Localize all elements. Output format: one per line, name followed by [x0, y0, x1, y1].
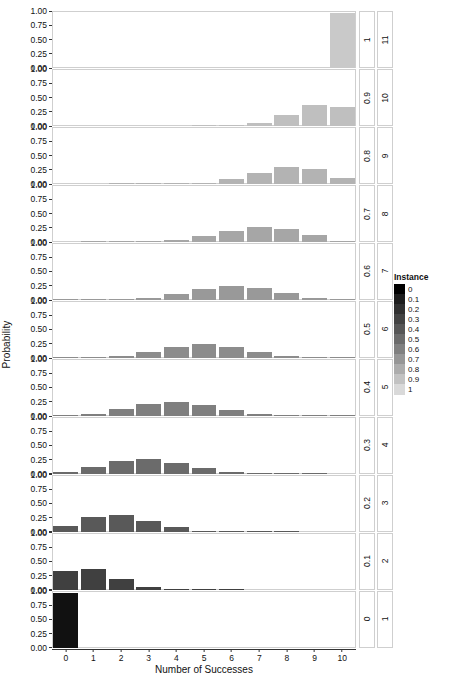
- strip-instance-label: 0.9: [359, 69, 375, 126]
- y-tick-label: 0.25: [30, 223, 52, 233]
- y-tick-label: 0.25: [30, 455, 52, 465]
- bar: [247, 288, 272, 300]
- facet-panel: 0.000.250.500.751.000.34: [52, 417, 356, 474]
- y-tick-label: 0.25: [30, 397, 52, 407]
- facet-panel: 0.000.250.500.751.000.23: [52, 475, 356, 532]
- x-axis-title: Number of Successes: [52, 664, 356, 675]
- bar: [330, 178, 355, 184]
- legend-swatch: [394, 284, 405, 295]
- strip-instance-label: 0.8: [359, 127, 375, 184]
- strip-instance-label: 0.7: [359, 185, 375, 242]
- x-tick-label: 1: [91, 649, 96, 663]
- legend-swatch: [394, 314, 405, 325]
- panel-strips: 0.910: [356, 69, 396, 126]
- legend-entry-label: 0: [408, 285, 412, 294]
- x-tick-label: 7: [257, 649, 262, 663]
- bar: [164, 294, 189, 300]
- legend-entry-label: 0.6: [408, 345, 419, 354]
- bar: [192, 236, 217, 242]
- bar: [136, 298, 161, 300]
- facet-panel: 0.000.250.500.751.000.910: [52, 69, 356, 126]
- y-tick-label: 0.25: [30, 571, 52, 581]
- strip-panel-label: 6: [377, 301, 393, 358]
- facet-panel: 0.000.250.500.751.000.45: [52, 359, 356, 416]
- facet-panel: 0.000.250.500.751.00111: [52, 11, 356, 68]
- y-axis-ticks: 0.000.250.500.751.00: [0, 11, 52, 68]
- y-tick-label: 0.75: [30, 194, 52, 204]
- strip-panel-label: 4: [377, 417, 393, 474]
- y-axis-ticks: 0.000.250.500.751.00: [0, 243, 52, 300]
- strip-panel-label: 8: [377, 185, 393, 242]
- facet-panel: 0.000.250.500.751.000.12: [52, 533, 356, 590]
- legend-swatch: [394, 374, 405, 385]
- bar: [81, 569, 106, 590]
- panel-strips: 0.12: [356, 533, 396, 590]
- bar: [53, 472, 78, 474]
- bar: [247, 123, 272, 126]
- strip-instance-label: 0.1: [359, 533, 375, 590]
- y-tick-label: 1.00: [30, 64, 52, 74]
- y-tick-label: 1.00: [30, 180, 52, 190]
- bar: [302, 298, 327, 300]
- strip-instance-label: 1: [359, 11, 375, 68]
- x-tick-label: 5: [202, 649, 207, 663]
- y-tick-label: 0.75: [30, 542, 52, 552]
- panel-plot-area: [52, 11, 356, 68]
- y-tick-label: 0.75: [30, 78, 52, 88]
- y-tick-label: 0.50: [30, 556, 52, 566]
- chart-root: Probability 0.000.250.500.751.001110.000…: [0, 0, 449, 688]
- bar: [330, 241, 355, 243]
- legend-entry-label: 0.2: [408, 305, 419, 314]
- legend-entry-label: 0.9: [408, 375, 419, 384]
- y-tick-label: 0.50: [30, 151, 52, 161]
- y-tick-label: 0.50: [30, 614, 52, 624]
- bar: [81, 467, 106, 474]
- panel-plot-area: [52, 69, 356, 126]
- legend-swatch: [394, 324, 405, 335]
- x-tick-label: 2: [119, 649, 124, 663]
- y-tick-label: 0.75: [30, 310, 52, 320]
- panel-strips: 111: [356, 11, 396, 68]
- y-tick-label: 0.50: [30, 266, 52, 276]
- bar: [302, 105, 327, 126]
- legend-entry-label: 0.4: [408, 325, 419, 334]
- bar: [330, 13, 355, 68]
- legend-entry-label: 0.1: [408, 295, 419, 304]
- y-tick-label: 0.50: [30, 440, 52, 450]
- bar: [247, 173, 272, 184]
- bar: [219, 179, 244, 184]
- x-tick-label: 8: [285, 649, 290, 663]
- y-tick-label: 1.00: [30, 528, 52, 538]
- panel-strips: 0.67: [356, 243, 396, 300]
- bar: [109, 461, 134, 474]
- bar: [219, 472, 244, 474]
- bar: [81, 414, 106, 416]
- bar: [274, 356, 299, 358]
- facet-panel: 0.000.250.500.751.000.78: [52, 185, 356, 242]
- bar: [164, 402, 189, 416]
- bar: [136, 404, 161, 416]
- bar: [274, 167, 299, 184]
- bar: [192, 531, 217, 532]
- bar: [109, 356, 134, 358]
- facet-panel-stack: 0.000.250.500.751.001110.000.250.500.751…: [52, 11, 356, 649]
- bar: [274, 115, 299, 126]
- y-tick-label: 1.00: [30, 296, 52, 306]
- y-tick-label: 0.25: [30, 49, 52, 59]
- legend-entry-label: 0.7: [408, 355, 419, 364]
- strip-instance-label: 0.4: [359, 359, 375, 416]
- legend-entry-label: 0.3: [408, 315, 419, 324]
- legend-entry-label: 0.5: [408, 335, 419, 344]
- bar: [219, 410, 244, 416]
- legend-colorbar: [394, 284, 405, 394]
- panel-plot-area: [52, 243, 356, 300]
- bar: [219, 347, 244, 358]
- legend-swatch: [394, 364, 405, 375]
- strip-instance-label: 0.2: [359, 475, 375, 532]
- panel-strips: 0.78: [356, 185, 396, 242]
- panel-strips: 0.23: [356, 475, 396, 532]
- bar: [219, 231, 244, 242]
- bar: [53, 593, 78, 648]
- strip-panel-label: 3: [377, 475, 393, 532]
- y-tick-label: 0.75: [30, 426, 52, 436]
